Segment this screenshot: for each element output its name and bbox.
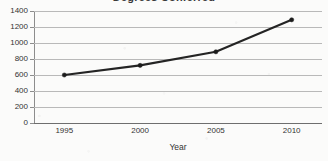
y-axis-label-600: 600 <box>15 71 28 79</box>
x-axis-label-1995: 1995 <box>55 127 73 135</box>
x-axis-label-2005: 2005 <box>207 127 225 135</box>
x-axis-title: Year <box>34 142 322 152</box>
series-line-degrees-conferred <box>64 20 291 75</box>
x-axis-label-2000: 2000 <box>131 127 149 135</box>
y-axis-label-1000: 1000 <box>10 39 28 47</box>
gridline-0 <box>34 123 322 124</box>
y-axis-label-400: 400 <box>15 87 28 95</box>
x-axis-label-2010: 2010 <box>283 127 301 135</box>
y-axis-label-200: 200 <box>15 103 28 111</box>
data-point-2000 <box>138 63 142 67</box>
chart-plot-area: 0200400600800100012001400 19952000200520… <box>34 11 322 123</box>
series-plot <box>34 11 322 123</box>
chart-title: Degrees Conferred <box>0 0 328 3</box>
y-axis-label-1200: 1200 <box>10 23 28 31</box>
y-axis-label-1400: 1400 <box>10 7 28 15</box>
data-point-2005 <box>214 50 218 54</box>
series-markers <box>62 18 294 77</box>
data-point-2010 <box>290 18 294 22</box>
y-tick-0 <box>30 123 34 124</box>
data-point-1995 <box>62 73 66 77</box>
y-axis-label-0: 0 <box>24 119 28 127</box>
y-axis-label-800: 800 <box>15 55 28 63</box>
